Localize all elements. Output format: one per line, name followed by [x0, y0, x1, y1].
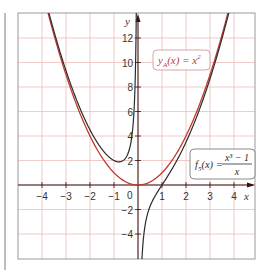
ya-sup: 2 — [197, 53, 201, 61]
x-tick-label: −2 — [84, 191, 96, 202]
y-tick-label: 12 — [122, 33, 134, 44]
f5-numerator: x³ − 1 — [224, 152, 249, 163]
y-tick-label: −2 — [122, 205, 134, 216]
y-tick-label: 8 — [127, 82, 133, 93]
curve-f5-right — [142, 0, 256, 261]
y-tick-label: 2 — [127, 156, 133, 167]
x-tick-label: −3 — [60, 191, 72, 202]
y-tick-label: −4 — [122, 229, 134, 240]
axes — [18, 14, 255, 259]
x-axis-label: x — [243, 190, 249, 202]
function-plot: −4−3−2−11234−4−224681012 yA(x) = x2 f5(x… — [0, 0, 273, 274]
curves — [18, 0, 256, 261]
y-tick-label: 10 — [122, 58, 134, 69]
x-tick-label: −1 — [108, 191, 120, 202]
x-tick-label: 2 — [183, 191, 189, 202]
f5-denominator: x — [234, 166, 240, 177]
label-ya: yA(x) = x2 — [153, 50, 210, 70]
ya-rest: (x) = x — [167, 54, 197, 67]
x-tick-label: 3 — [207, 191, 213, 202]
x-tick-label: 4 — [231, 191, 237, 202]
plot-svg: −4−3−2−11234−4−224681012 yA(x) = x2 f5(x… — [0, 0, 273, 274]
side-bar — [4, 13, 6, 270]
x-tick-label: 1 — [159, 191, 165, 202]
f5-rest: (x) = — [201, 159, 222, 171]
y-tick-label: 6 — [127, 107, 133, 118]
x-tick-label: −4 — [36, 191, 48, 202]
curve-f5-left — [18, 0, 136, 162]
origin-label: 0 — [127, 190, 133, 201]
y-axis-label: y — [124, 15, 130, 27]
x-axis-arrow-icon — [247, 183, 255, 188]
label-f5: f5(x) = x³ − 1 x — [190, 149, 255, 179]
